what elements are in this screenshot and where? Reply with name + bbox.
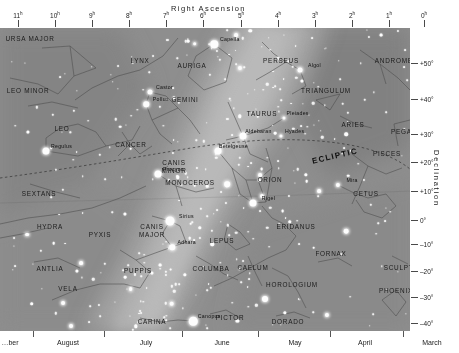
- ra-tick-label: 4h: [275, 11, 281, 19]
- star-marker: [260, 167, 263, 170]
- star-marker: [281, 100, 283, 102]
- star-marker: [235, 232, 238, 235]
- star-marker: [206, 122, 208, 124]
- star-marker: [59, 76, 61, 78]
- star-chart: CapellaAlgolCastorPolluxPleiadesHyadesAl…: [0, 0, 459, 353]
- star-marker: [124, 276, 127, 279]
- star-marker: [274, 85, 276, 87]
- star-marker: [43, 148, 50, 155]
- star-marker: [240, 133, 247, 140]
- star-marker: [266, 83, 269, 86]
- star-marker: [76, 151, 78, 153]
- dec-tick-mark: [411, 63, 418, 64]
- dec-tick-mark: [411, 99, 418, 100]
- star-marker: [272, 71, 274, 73]
- ra-tick-label: 6h: [200, 11, 206, 19]
- star-marker: [184, 40, 187, 43]
- star-marker: [247, 231, 249, 233]
- star-marker: [52, 242, 55, 245]
- month-label: …ber: [1, 339, 18, 346]
- star-marker: [260, 194, 264, 198]
- ra-tick-mark: [166, 20, 167, 27]
- star-marker: [82, 212, 84, 214]
- star-marker: [278, 106, 280, 108]
- star-marker: [169, 268, 172, 271]
- star-marker: [320, 130, 322, 132]
- star-marker: [297, 220, 299, 222]
- star-marker: [143, 101, 149, 107]
- star-marker: [131, 62, 134, 65]
- star-marker: [130, 115, 132, 117]
- star-marker: [14, 125, 16, 127]
- star-marker: [341, 103, 344, 106]
- star-marker: [247, 166, 249, 168]
- star-marker: [30, 302, 34, 306]
- star-marker: [251, 112, 253, 114]
- dec-tick-mark: [411, 244, 418, 245]
- star-marker: [79, 261, 83, 265]
- star-marker: [208, 283, 210, 285]
- star-marker: [291, 66, 294, 69]
- star-marker: [109, 146, 111, 148]
- ra-tick-mark: [129, 20, 130, 27]
- ra-tick-label: 5h: [238, 11, 244, 19]
- star-marker: [277, 160, 279, 162]
- star-marker: [152, 55, 154, 57]
- star-marker: [178, 283, 180, 285]
- star-marker: [334, 138, 336, 140]
- star-marker: [311, 37, 313, 39]
- star-marker: [250, 200, 257, 207]
- star-marker: [188, 237, 191, 240]
- star-marker: [403, 66, 405, 68]
- star-marker: [339, 79, 341, 81]
- sky-graphics: [0, 28, 410, 331]
- star-marker: [297, 168, 300, 171]
- star-marker: [207, 290, 209, 292]
- star-marker: [341, 253, 343, 255]
- dec-tick-label: +40°: [420, 96, 434, 103]
- dec-tick-mark: [411, 191, 418, 192]
- star-marker: [193, 42, 197, 46]
- star-marker: [73, 159, 75, 161]
- star-marker: [111, 211, 113, 213]
- star-marker: [236, 259, 238, 261]
- star-marker: [283, 78, 285, 80]
- dec-tick-mark: [411, 271, 418, 272]
- star-marker: [369, 325, 371, 327]
- star-marker: [169, 301, 174, 306]
- star-marker: [406, 79, 408, 81]
- star-marker: [298, 243, 300, 245]
- ra-tick-label: 1h: [386, 11, 392, 19]
- ra-tick-mark: [203, 20, 204, 27]
- ra-tick-label: 9h: [89, 11, 95, 19]
- star-marker: [248, 278, 250, 280]
- star-marker: [178, 200, 180, 202]
- star-marker: [88, 321, 90, 323]
- star-marker: [372, 313, 374, 315]
- dec-tick-mark: [411, 323, 418, 324]
- star-marker: [242, 260, 244, 262]
- star-marker: [146, 287, 148, 289]
- ra-tick-label: 0h: [421, 11, 427, 19]
- star-marker: [187, 40, 190, 43]
- star-marker: [321, 136, 324, 139]
- star-marker: [228, 97, 231, 100]
- star-marker: [222, 144, 225, 147]
- star-marker: [277, 57, 280, 60]
- star-marker: [119, 125, 122, 128]
- star-marker: [272, 324, 274, 326]
- star-marker: [318, 86, 320, 88]
- star-marker: [215, 157, 218, 160]
- star-marker: [259, 210, 261, 212]
- star-marker: [169, 244, 175, 250]
- star-marker: [206, 185, 209, 188]
- star-marker: [377, 222, 379, 224]
- star-marker: [241, 281, 243, 283]
- star-marker: [295, 45, 297, 47]
- star-marker: [258, 179, 261, 182]
- ra-tick-label: 10h: [50, 11, 60, 19]
- star-marker: [235, 50, 237, 52]
- star-marker: [363, 98, 366, 101]
- star-marker: [166, 99, 168, 101]
- star-marker: [64, 243, 66, 245]
